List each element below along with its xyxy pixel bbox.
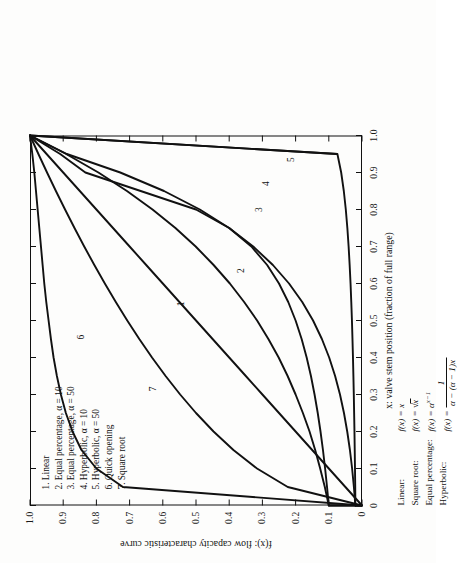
legend-item-7: 7. Square root bbox=[116, 386, 129, 489]
x-tick-label-0.4: 0.4 bbox=[369, 351, 379, 363]
formula-row-4: Hyperbolic:f(x) = 1α − (α − 1)x bbox=[438, 357, 451, 505]
legend-item-6: 6. Quick opening bbox=[103, 386, 116, 489]
formula-lhs-1: f(x) = bbox=[396, 407, 406, 431]
y-tick-label-0.7: 0.7 bbox=[125, 511, 135, 537]
formula-lhs-4: f(x) = bbox=[442, 407, 452, 431]
x-axis-title: x: valve stem position (fraction of full… bbox=[383, 135, 394, 505]
x-tick-label-0.8: 0.8 bbox=[369, 203, 379, 215]
formula-body-3: f(x) = αx−1 bbox=[424, 391, 436, 431]
curve-label-1: 1 bbox=[176, 301, 186, 306]
x-tick-label-0.3: 0.3 bbox=[369, 388, 379, 400]
curve-label-2: 2 bbox=[236, 268, 246, 273]
formula-row-2: Square root:f(x) = √x bbox=[410, 357, 423, 505]
legend-item-5: 5. Hyperbolic, α = 50 bbox=[90, 386, 103, 489]
fraction-denominator-4: α − (α − 1)x bbox=[447, 357, 457, 407]
formula-rhs-exponent-3: x−1 bbox=[424, 391, 432, 402]
y-tick-label-0.9: 0.9 bbox=[58, 511, 68, 537]
formula-lhs-2: f(x) = bbox=[410, 407, 420, 431]
x-tick-label-0.9: 0.9 bbox=[369, 166, 379, 178]
formula-rhs-2: x bbox=[410, 398, 420, 403]
curve-label-7: 7 bbox=[148, 386, 158, 391]
curve-riser-5-top bbox=[30, 135, 337, 154]
formula-body-4: f(x) = 1α − (α − 1)x bbox=[438, 357, 458, 431]
curve-label-4: 4 bbox=[261, 181, 271, 186]
formula-name-3: Equal percentage: bbox=[424, 431, 434, 505]
legend-item-3: 3. Equal percentage, α = 50 bbox=[65, 386, 78, 489]
y-tick-label-0.1: 0.1 bbox=[324, 511, 334, 537]
formula-lhs-3: f(x) = bbox=[426, 407, 436, 431]
formula-row-3: Equal percentage:f(x) = αx−1 bbox=[424, 357, 437, 505]
y-tick-label-0: 0 bbox=[357, 511, 367, 537]
formula-rhs-1: x bbox=[396, 403, 406, 407]
y-tick-label-0.5: 0.5 bbox=[191, 511, 201, 537]
formula-name-2: Square root: bbox=[410, 431, 420, 505]
y-tick-label-0.4: 0.4 bbox=[224, 511, 234, 537]
fraction-numerator-4: 1 bbox=[437, 357, 447, 407]
x-tick-label-1.0: 1.0 bbox=[369, 129, 379, 141]
formula-name-1: Linear: bbox=[396, 431, 406, 505]
x-tick-label-0.1: 0.1 bbox=[369, 462, 379, 474]
formula-name-4: Hyperbolic: bbox=[438, 431, 448, 505]
curve-label-3: 3 bbox=[254, 207, 264, 212]
x-tick-label-0.2: 0.2 bbox=[369, 425, 379, 437]
x-tick-label-0: 0 bbox=[369, 503, 379, 508]
y-tick-label-0.3: 0.3 bbox=[257, 511, 267, 537]
x-tick-label-0.5: 0.5 bbox=[369, 314, 379, 326]
formula-body-2: f(x) = √x bbox=[410, 398, 420, 431]
curve-label-6: 6 bbox=[76, 334, 86, 339]
y-axis-title: f(x): flow capacity characteristic curve bbox=[120, 538, 272, 549]
formula-fraction-4: 1α − (α − 1)x bbox=[437, 357, 457, 407]
legend-item-4: 4. Hyperbolic, α = 10 bbox=[78, 386, 91, 489]
y-tick-label-0.6: 0.6 bbox=[158, 511, 168, 537]
formula-block: Linear:f(x) = xSquare root:f(x) = √xEqua… bbox=[396, 357, 452, 505]
y-tick-label-0.8: 0.8 bbox=[91, 511, 101, 537]
y-tick-label-1.0: 1.0 bbox=[25, 511, 35, 537]
x-tick-label-0.6: 0.6 bbox=[369, 277, 379, 289]
legend-item-2: 2. Equal percentage, α = 10 bbox=[53, 386, 66, 489]
legend-item-1: 1. Linear bbox=[40, 386, 53, 489]
formula-row-1: Linear:f(x) = x bbox=[396, 357, 409, 505]
legend: 1. Linear2. Equal percentage, α = 103. E… bbox=[40, 386, 128, 489]
y-tick-label-0.2: 0.2 bbox=[291, 511, 301, 537]
curve-label-5: 5 bbox=[286, 157, 296, 162]
formula-body-1: f(x) = x bbox=[396, 403, 406, 431]
x-tick-label-0.7: 0.7 bbox=[369, 240, 379, 252]
